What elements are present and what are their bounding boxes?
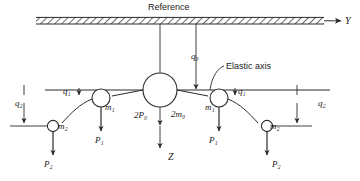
p1-left-label: P₁ (95, 136, 104, 145)
m1-right-label: m₁ (205, 103, 215, 112)
p2-left-label: P₂ (44, 160, 53, 169)
y-axis-label: Y (345, 16, 351, 26)
p1-right-label: P₁ (209, 136, 218, 145)
q2-right-label: q₂ (318, 99, 326, 108)
reference-label: Reference (148, 3, 190, 12)
m1-left-label: m₁ (105, 103, 115, 112)
mass-m1-right (177, 89, 228, 107)
mass-m1-left (92, 89, 143, 107)
q1-left-label: q₁ (63, 87, 71, 96)
center-force-label: 2P₀ (134, 111, 147, 120)
elastic-axis-label: Elastic axis (226, 62, 271, 71)
q2-left-label: q₂ (15, 99, 23, 108)
link-m1-m2-right (228, 99, 273, 132)
q1-right-label: q₁ (238, 87, 246, 96)
reference-bar (36, 17, 324, 24)
elastic-axis-leader (210, 66, 224, 90)
center-mass-label: 2m₀ (171, 110, 185, 119)
q0-label: q₀ (191, 52, 199, 61)
center-hub (143, 73, 177, 107)
m2-right-label: m₂ (270, 122, 280, 131)
q2-right-dimension (273, 85, 312, 126)
link-m1-m2-left (47, 99, 92, 132)
z-axis-label: Z (168, 152, 174, 162)
m2-left-label: m₂ (58, 122, 68, 131)
structural-dynamics-diagram (0, 0, 360, 181)
p2-right-label: P₂ (272, 160, 281, 169)
